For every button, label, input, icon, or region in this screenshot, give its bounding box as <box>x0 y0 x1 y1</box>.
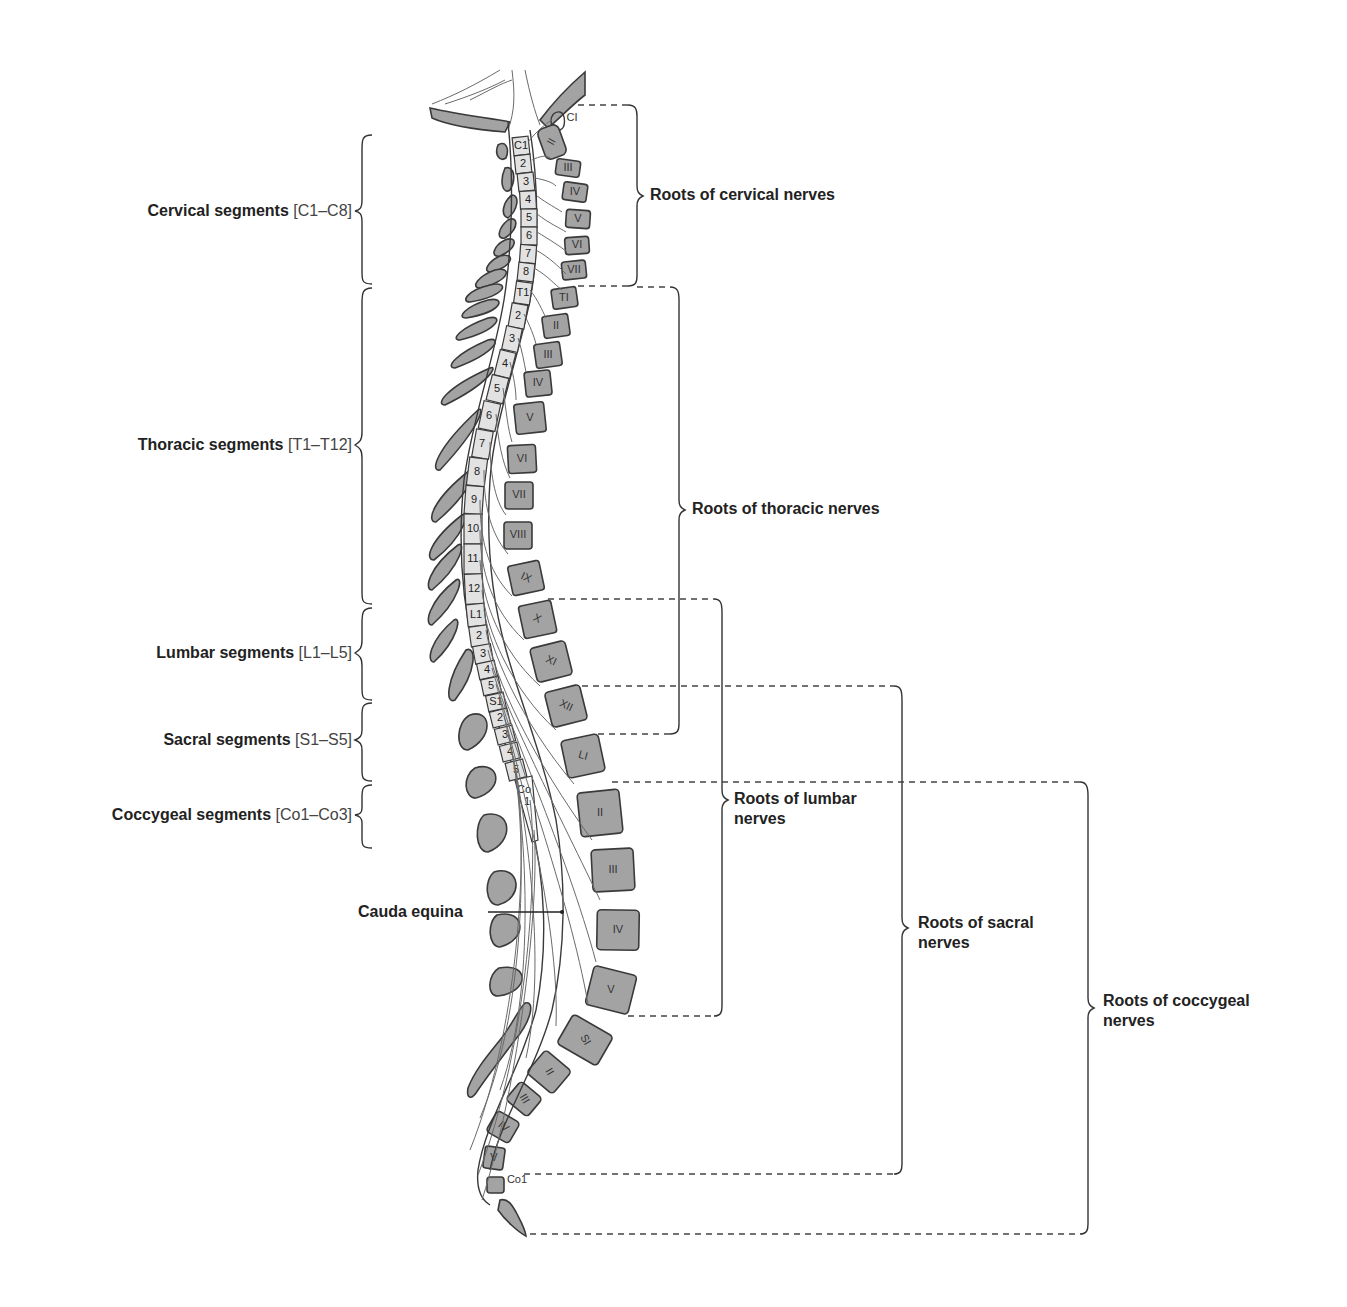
vertebra-t7: VII <box>505 482 533 509</box>
segment-l1: L1 <box>466 603 486 627</box>
segment-c2: 2 <box>514 154 532 174</box>
label-thoracic-segments: Thoracic segments [T1–T12] <box>138 435 352 455</box>
label-roots-cervical: Roots of cervical nerves <box>650 185 835 205</box>
vertebra-s1: SI <box>557 1014 614 1066</box>
svg-text:3: 3 <box>509 332 515 344</box>
vertebra-c5: V <box>565 209 590 229</box>
label-roots-thoracic: Roots of thoracic nerves <box>692 499 880 519</box>
svg-text:III: III <box>543 348 552 360</box>
svg-text:IV: IV <box>533 376 544 388</box>
segment-t12: 12 <box>464 574 484 605</box>
svg-text:7: 7 <box>525 247 531 259</box>
svg-text:3: 3 <box>523 175 529 187</box>
svg-text:5: 5 <box>526 211 532 223</box>
segment-s2: 2 <box>489 708 510 728</box>
segment-c7: 7 <box>519 244 536 263</box>
svg-text:VII: VII <box>567 263 580 275</box>
svg-text:2: 2 <box>476 629 482 641</box>
vertebra-t10: X <box>518 600 557 639</box>
vertebra-t3: III <box>533 341 562 368</box>
segment-c4: 4 <box>520 191 537 210</box>
svg-text:7: 7 <box>479 437 485 449</box>
svg-text:9: 9 <box>471 493 477 505</box>
svg-text:CI: CI <box>567 111 578 123</box>
label-sacral-segments: Sacral segments [S1–S5] <box>163 730 352 750</box>
svg-text:V: V <box>526 411 534 423</box>
vertebra-t1: TI <box>551 286 579 309</box>
label-roots-lumbar: Roots of lumbarnerves <box>734 789 857 829</box>
svg-text:2: 2 <box>520 157 526 169</box>
vertebra-c7: VII <box>561 260 587 280</box>
svg-text:6: 6 <box>486 409 492 421</box>
vertebra-l2: II <box>577 789 623 837</box>
vertebral-bodies: CI II III IV V VI VII TI II III IV V VI … <box>483 111 640 1236</box>
svg-text:4: 4 <box>525 193 531 205</box>
svg-text:III: III <box>608 863 617 875</box>
svg-text:12: 12 <box>468 582 480 594</box>
vertebra-c4: IV <box>562 181 588 202</box>
svg-text:11: 11 <box>467 552 478 564</box>
vertebra-t12: XII <box>544 684 588 728</box>
svg-text:II: II <box>597 806 603 818</box>
svg-text:C1: C1 <box>514 139 528 151</box>
segment-t11: 11 <box>464 544 482 574</box>
label-coccygeal-segments: Coccygeal segments [Co1–Co3] <box>112 805 352 825</box>
svg-text:2: 2 <box>497 711 503 723</box>
vertebra-c2: II <box>536 123 568 161</box>
vertebra-l3: III <box>591 848 635 892</box>
svg-text:3: 3 <box>480 647 486 659</box>
svg-text:III: III <box>563 161 572 173</box>
svg-text:T1: T1 <box>517 286 530 298</box>
segment-c1: C1 <box>512 136 530 156</box>
svg-text:8: 8 <box>474 465 480 477</box>
segment-t1: T1 <box>514 281 533 305</box>
svg-text:VII: VII <box>512 488 525 500</box>
vertebra-t5: V <box>514 402 547 435</box>
svg-text:5: 5 <box>488 679 494 691</box>
svg-text:4: 4 <box>502 357 508 369</box>
label-cauda-equina: Cauda equina <box>358 902 463 922</box>
vertebra-c3: III <box>555 158 581 177</box>
vertebra-t8: VIII <box>504 522 532 549</box>
svg-text:2: 2 <box>515 309 521 321</box>
segment-c8: 8 <box>517 262 535 282</box>
vertebra-l5: V <box>585 965 637 1014</box>
left-braces <box>355 135 372 848</box>
svg-text:VIII: VIII <box>510 528 527 540</box>
right-brackets <box>524 105 1094 1234</box>
segment-t10: 10 <box>464 514 482 544</box>
vertebra-l1: LI <box>560 733 605 778</box>
svg-text:VI: VI <box>517 452 527 464</box>
cauda-equina-pointer <box>488 910 564 914</box>
segment-c5: 5 <box>521 209 537 227</box>
vertebra-t6: VI <box>507 444 536 473</box>
svg-text:6: 6 <box>526 229 532 241</box>
svg-text:8: 8 <box>523 265 529 277</box>
svg-text:Co1: Co1 <box>507 1173 527 1185</box>
svg-text:V: V <box>607 983 615 995</box>
vertebra-l4: IV <box>597 910 640 951</box>
vertebra-t4: IV <box>524 370 552 398</box>
svg-text:5: 5 <box>494 382 500 394</box>
svg-text:IV: IV <box>613 923 624 935</box>
svg-text:TI: TI <box>559 291 569 303</box>
vertebra-s2: II <box>526 1050 571 1095</box>
vertebra-c6: VI <box>564 236 589 255</box>
svg-text:4: 4 <box>484 663 490 675</box>
label-roots-coccygeal: Roots of coccygealnerves <box>1103 991 1250 1031</box>
svg-text:V: V <box>574 212 582 224</box>
segment-t9: 9 <box>464 485 484 514</box>
label-roots-sacral: Roots of sacralnerves <box>918 913 1034 953</box>
label-lumbar-segments: Lumbar segments [L1–L5] <box>156 643 352 663</box>
svg-text:VI: VI <box>572 238 582 250</box>
svg-text:IV: IV <box>570 185 581 197</box>
vertebra-co1: Co1 <box>487 1173 527 1193</box>
segment-c3: 3 <box>517 172 535 192</box>
svg-text:10: 10 <box>467 522 479 534</box>
vertebra-t9: IX <box>507 560 545 596</box>
label-cervical-segments: Cervical segments [C1–C8] <box>147 201 352 221</box>
svg-text:II: II <box>553 319 559 331</box>
segment-c6: 6 <box>521 227 537 245</box>
vertebra-t11: XI <box>529 640 572 683</box>
segment-t3: 3 <box>502 326 523 353</box>
